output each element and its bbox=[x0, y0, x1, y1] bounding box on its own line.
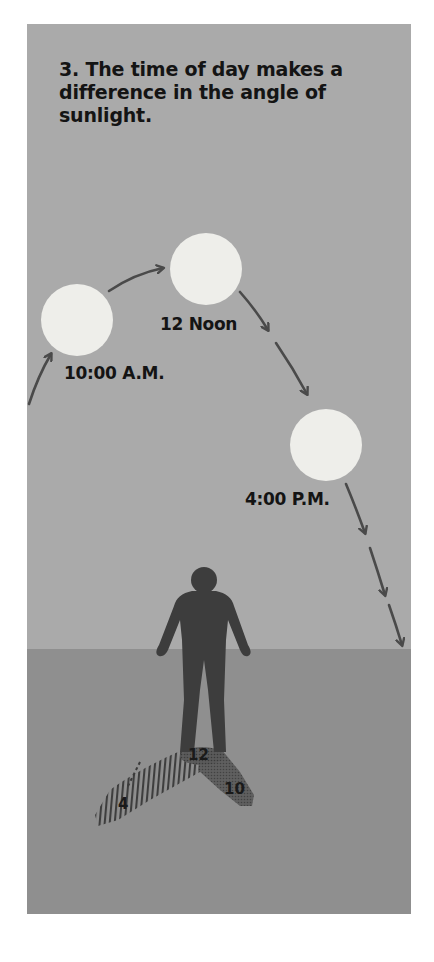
shadow-10am-label: 10 bbox=[224, 780, 245, 798]
arrow-icon bbox=[346, 484, 365, 533]
sun-10am-icon bbox=[41, 284, 113, 356]
arrow-icon bbox=[29, 354, 51, 404]
sun-path-diagram bbox=[27, 24, 411, 914]
arrow-icon bbox=[370, 548, 385, 595]
illustration-panel: 3. The time of day makes a difference in… bbox=[27, 24, 411, 914]
sun-4pm-label: 4:00 P.M. bbox=[245, 489, 330, 509]
shadow-4pm-label: 4 bbox=[118, 795, 128, 813]
sun-noon-icon bbox=[170, 233, 242, 305]
sun-10am-label: 10:00 A.M. bbox=[64, 363, 164, 383]
shadow-4pm bbox=[95, 752, 200, 826]
sun-noon-label: 12 Noon bbox=[160, 314, 237, 334]
shadow-noon-label: 12 bbox=[188, 746, 209, 764]
sun-4pm-icon bbox=[290, 409, 362, 481]
arrow-icon bbox=[109, 268, 163, 291]
arrow-icon bbox=[389, 605, 402, 645]
arrow-icon bbox=[240, 292, 268, 330]
arrow-icon bbox=[276, 343, 307, 394]
person-silhouette bbox=[156, 567, 250, 752]
